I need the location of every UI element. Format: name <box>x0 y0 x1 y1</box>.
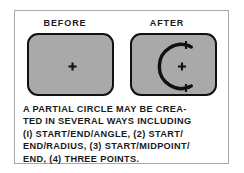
column-header-before: BEFORE <box>15 17 115 29</box>
before-viewport-panel <box>27 33 114 96</box>
caption-line: END, (4) THREE POINTS. <box>23 153 223 165</box>
center-point-marker <box>69 63 77 71</box>
viewport-panels <box>15 33 228 97</box>
partial-circle-arc <box>159 45 191 89</box>
before-viewport-drawing <box>29 35 116 98</box>
figure-card: BEFORE AFTER <box>14 10 229 164</box>
after-viewport-drawing <box>132 35 219 98</box>
caption-block: A PARTIAL CIRCLE MAY BE CREA- TED IN SEV… <box>23 103 223 165</box>
caption-line: TED IN SEVERAL WAYS INCLUDING <box>23 115 223 127</box>
column-headers: BEFORE AFTER <box>15 17 228 31</box>
partial-circle-instruction-figure: BEFORE AFTER <box>0 0 244 173</box>
caption-line: A PARTIAL CIRCLE MAY BE CREA- <box>23 103 223 115</box>
arc-end-point-marker <box>182 84 190 92</box>
caption-line: (I) START/END/ANGLE, (2) START/ <box>23 128 223 140</box>
arc-center-point-marker <box>178 63 186 71</box>
arc-start-point-marker <box>182 41 190 49</box>
column-header-after: AFTER <box>115 17 219 29</box>
caption-line: END/RADIUS, (3) START/MIDPOINT/ <box>23 140 223 152</box>
after-viewport-panel <box>130 33 217 96</box>
